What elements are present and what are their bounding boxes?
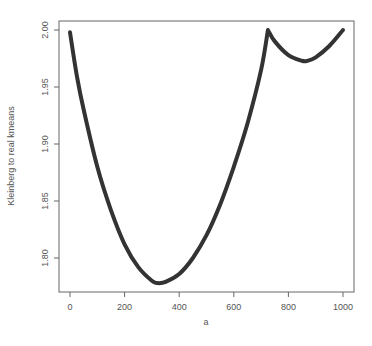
x-axis: 02004006008001000 [67,292,353,312]
x-tick-label: 0 [67,302,72,312]
x-tick-label: 200 [117,302,132,312]
x-axis-label: a [203,317,208,327]
y-tick-label: 1.95 [40,78,50,96]
data-line [70,30,343,283]
x-tick-label: 600 [226,302,241,312]
y-tick-label: 1.80 [40,249,50,267]
y-tick-label: 2.00 [40,21,50,39]
x-tick-label: 1000 [333,302,353,312]
x-tick-label: 800 [281,302,296,312]
y-axis-label: Kleinberg to real kmeans [6,106,16,206]
y-axis: 1.801.851.901.952.00 [40,21,59,267]
y-tick-label: 1.90 [40,135,50,153]
y-tick-label: 1.85 [40,192,50,210]
line-chart: 02004006008001000 1.801.851.901.952.00 a… [0,0,372,346]
x-tick-label: 400 [172,302,187,312]
